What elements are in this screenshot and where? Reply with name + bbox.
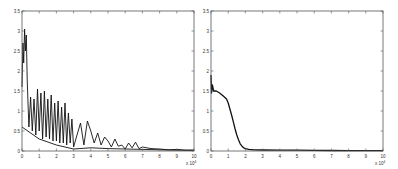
x-tick-label: 10	[380, 154, 386, 159]
x-tick-label: 9	[365, 154, 368, 159]
x-tick-label: 2	[55, 154, 58, 159]
x-tick-label: 0	[210, 154, 213, 159]
y-tick-label: 3.5	[203, 9, 210, 14]
left-plot: 01234567891000.511.522.533.5x 104	[14, 9, 197, 167]
y-tick-label: 1	[17, 109, 20, 114]
series-line-smoothed-signal	[211, 75, 383, 151]
y-tick-label: 2.5	[14, 49, 21, 54]
y-tick-label: 1.5	[203, 89, 210, 94]
x-tick-label: 6	[313, 154, 316, 159]
x-tick-label: 5	[296, 154, 299, 159]
y-tick-label: 1.5	[14, 89, 21, 94]
x-tick-label: 8	[158, 154, 161, 159]
y-tick-label: 2.5	[203, 49, 210, 54]
series-line-signal-envelope-upper	[22, 29, 194, 150]
x-tick-label: 1	[227, 154, 230, 159]
x-tick-label: 7	[330, 154, 333, 159]
y-tick-label: 2	[17, 69, 20, 74]
axes-frame	[22, 11, 194, 151]
x-tick-label: 1	[38, 154, 41, 159]
x-tick-label: 8	[347, 154, 350, 159]
x-tick-label: 4	[279, 154, 282, 159]
axes-frame	[211, 11, 383, 151]
x-tick-label: 3	[72, 154, 75, 159]
y-tick-label: 3	[17, 29, 20, 34]
y-tick-label: 1	[206, 109, 209, 114]
right-plot: 01234567891000.511.522.533.5x 104	[203, 9, 386, 167]
x-axis-multiplier: x 104	[186, 160, 197, 166]
y-tick-label: 2	[206, 69, 209, 74]
x-tick-label: 3	[261, 154, 264, 159]
x-tick-label: 5	[107, 154, 110, 159]
x-tick-label: 4	[90, 154, 93, 159]
x-tick-label: 0	[21, 154, 24, 159]
series-line-signal-baseline	[22, 127, 194, 150]
x-tick-label: 2	[244, 154, 247, 159]
x-axis-multiplier: x 104	[375, 160, 386, 166]
x-tick-label: 9	[176, 154, 179, 159]
y-tick-label: 0.5	[203, 129, 210, 134]
y-tick-label: 0.5	[14, 129, 21, 134]
x-tick-label: 6	[124, 154, 127, 159]
y-tick-label: 3	[206, 29, 209, 34]
x-tick-label: 10	[191, 154, 197, 159]
y-tick-label: 3.5	[14, 9, 21, 14]
figure: 01234567891000.511.522.533.5x 104 012345…	[0, 0, 398, 169]
x-tick-label: 7	[141, 154, 144, 159]
